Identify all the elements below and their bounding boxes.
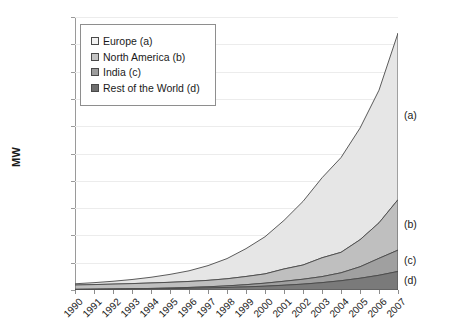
series-annotation: (d) [404,274,417,286]
series-annotation: (c) [404,254,416,266]
x-tick-mark [94,290,95,294]
chart-legend: Europe (a) North America (b) India (c) R… [80,24,216,106]
x-tick-mark [398,290,399,294]
y-tick-mark [71,126,75,127]
x-tick-mark [322,290,323,294]
y-tick-mark [71,99,75,100]
x-tick-mark [265,290,266,294]
y-tick-mark [71,17,75,18]
x-tick-mark [170,290,171,294]
y-tick-mark [71,235,75,236]
legend-label-europe: Europe (a) [103,36,153,47]
x-tick-mark [303,290,304,294]
y-tick-mark [71,208,75,209]
legend-label-north-america: North America (b) [103,52,185,63]
legend-swatch-india [91,68,99,76]
x-tick-mark [208,290,209,294]
x-tick-mark [246,290,247,294]
y-tick-mark [71,263,75,264]
x-tick-mark [113,290,114,294]
legend-item: North America (b) [91,52,207,63]
x-tick-mark [132,290,133,294]
x-tick-mark [341,290,342,294]
x-tick-mark [151,290,152,294]
x-tick-mark [75,290,76,294]
legend-item: Europe (a) [91,36,207,47]
legend-label-india: India (c) [103,67,141,78]
y-tick-mark [71,72,75,73]
x-tick-mark [360,290,361,294]
legend-swatch-north-america [91,53,99,61]
legend-swatch-rest-of-world [91,84,99,92]
series-annotation: (a) [404,109,417,121]
x-tick-mark [189,290,190,294]
stacked-area-chart: MW 1000020000300004000050000600007000080… [0,0,462,335]
legend-swatch-europe [91,37,99,45]
y-tick-mark [71,44,75,45]
y-axis-title: MW [10,127,22,187]
series-annotation: (b) [404,218,417,230]
y-tick-mark [71,181,75,182]
y-tick-mark [71,154,75,155]
legend-item: India (c) [91,67,207,78]
legend-item: Rest of the World (d) [91,83,207,94]
x-tick-mark [227,290,228,294]
x-tick-mark [284,290,285,294]
legend-label-rest-of-world: Rest of the World (d) [103,83,200,94]
x-tick-mark [379,290,380,294]
